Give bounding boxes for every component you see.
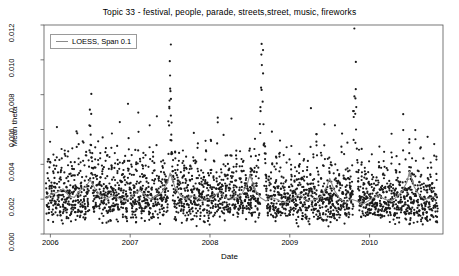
loess-line-swatch-icon <box>56 41 68 42</box>
chart-figure: Topic 33 - festival, people, parade, str… <box>0 0 459 276</box>
legend-label-loess: LOESS, Span 0.1 <box>72 37 131 46</box>
legend: LOESS, Span 0.1 <box>50 34 137 49</box>
